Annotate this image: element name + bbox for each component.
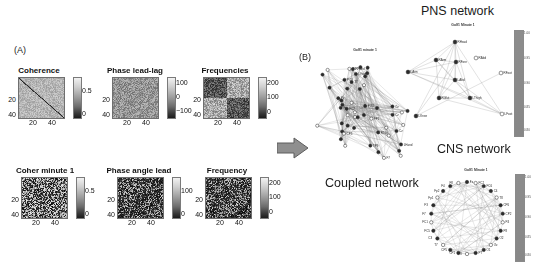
svg-text:O1: O1 bbox=[487, 248, 491, 252]
heatmap-frequencies-image bbox=[204, 78, 249, 118]
svg-text:Fz: Fz bbox=[470, 180, 474, 184]
colorbar-frequencies-label-max: 200 bbox=[267, 79, 279, 86]
svg-text:RAbd: RAbd bbox=[479, 56, 487, 60]
heatmap-title-phase-lead-lag: Phase lead-lag bbox=[95, 66, 175, 75]
svg-text:LThigh: LThigh bbox=[473, 96, 482, 100]
svg-text:LArm: LArm bbox=[411, 70, 419, 74]
colorbar-coher-minute-1-label-max: 0.5 bbox=[85, 187, 95, 194]
heatmap-title-coher-minute-1: Coher minute 1 bbox=[2, 166, 88, 175]
cns-network-heading: CNS network bbox=[437, 142, 511, 156]
heatmap-title-frequency: Frequency bbox=[192, 166, 262, 175]
colorbar-pns-tick-4: 0.80 bbox=[524, 128, 530, 132]
colorbar-cns bbox=[515, 174, 525, 262]
heatmap-frequencies-ytick-20: 20 bbox=[185, 96, 201, 103]
heatmap-coherence-ytick-20: 20 bbox=[0, 96, 16, 103]
heatmap-phase-lead-lag-xtick-40: 40 bbox=[140, 119, 152, 126]
svg-text:P7: P7 bbox=[478, 251, 482, 255]
svg-text:FC6: FC6 bbox=[487, 184, 493, 188]
svg-text:Fp1: Fp1 bbox=[428, 196, 434, 200]
svg-text:LHand: LHand bbox=[404, 143, 413, 147]
heatmap-phase-angle-lead-ytick-40: 40 bbox=[99, 211, 115, 218]
colorbar-cns-tick-3: 0.85 bbox=[525, 235, 531, 239]
svg-text:FC2: FC2 bbox=[349, 107, 355, 111]
svg-text:LFoot: LFoot bbox=[505, 112, 513, 116]
coupled-network-subtitle: Golf1 minute 1 bbox=[330, 48, 400, 52]
svg-text:LAbd: LAbd bbox=[458, 78, 465, 82]
colorbar-frequencies bbox=[258, 77, 267, 119]
svg-text:RFore: RFore bbox=[459, 60, 468, 64]
colorbar-pns bbox=[514, 30, 524, 137]
svg-text:P8: P8 bbox=[503, 229, 507, 233]
pns-network-subtitle: Golf1 Minute 1 bbox=[432, 23, 494, 27]
svg-text:F7: F7 bbox=[422, 212, 426, 216]
colorbar-pns-tick-0: 1.00 bbox=[524, 31, 530, 35]
colorbar-coherence bbox=[73, 77, 82, 119]
svg-text:RFoot: RFoot bbox=[504, 71, 512, 75]
heatmap-frequencies-ytick-40: 40 bbox=[185, 111, 201, 118]
heatmap-coher-minute-1-xtick-20: 20 bbox=[30, 219, 42, 226]
colorbar-cns-tick-0: 1.00 bbox=[525, 175, 531, 179]
heatmap-coher-minute-1-xtick-40: 40 bbox=[49, 219, 61, 226]
colorbar-phase-lead-lag bbox=[167, 77, 176, 119]
svg-text:CP5: CP5 bbox=[347, 132, 353, 136]
heatmap-frequency-image bbox=[206, 178, 251, 218]
svg-text:LFoot: LFoot bbox=[358, 72, 366, 76]
svg-text:T7: T7 bbox=[354, 80, 358, 84]
heatmap-coherence-image bbox=[19, 78, 64, 118]
heatmap-phase-angle-lead bbox=[117, 177, 164, 219]
heatmap-coherence-xtick-40: 40 bbox=[46, 119, 58, 126]
colorbar-frequencies-label-mid: 100 bbox=[267, 93, 279, 100]
svg-text:O2: O2 bbox=[499, 236, 503, 240]
svg-text:T8: T8 bbox=[499, 196, 503, 200]
coupled-network-heading: Coupled network bbox=[325, 176, 419, 190]
svg-text:CP6: CP6 bbox=[503, 203, 509, 207]
heatmap-coherence bbox=[18, 77, 65, 119]
colorbar-cns-tick-1: 0.95 bbox=[525, 195, 531, 199]
colorbar-coher-minute-1 bbox=[76, 177, 85, 219]
colorbar-phase-angle-lead-label-max: 100 bbox=[181, 187, 193, 194]
svg-text:RArm: RArm bbox=[439, 58, 447, 62]
svg-text:Oz: Oz bbox=[494, 243, 498, 247]
heatmap-phase-lead-lag-ytick-40: 40 bbox=[94, 111, 110, 118]
heatmap-coher-minute-1-ytick-40: 40 bbox=[3, 211, 19, 218]
svg-text:F3: F3 bbox=[424, 203, 428, 207]
colorbar-cns-tick-4: 0.80 bbox=[525, 253, 531, 257]
heatmap-title-phase-angle-lead: Phase angle lead bbox=[94, 166, 184, 175]
svg-text:LKnee: LKnee bbox=[419, 114, 428, 118]
colorbar-coherence-label-max: 0.5 bbox=[82, 87, 92, 94]
svg-text:Fp2: Fp2 bbox=[434, 189, 440, 193]
colorbar-frequency-label-mid: 100 bbox=[269, 193, 281, 200]
heatmap-phase-angle-lead-xtick-40: 40 bbox=[145, 219, 157, 226]
colorbar-frequency bbox=[260, 177, 269, 219]
heatmap-frequencies-xtick-20: 20 bbox=[212, 119, 224, 126]
svg-text:CP2: CP2 bbox=[506, 212, 512, 216]
colorbar-phase-angle-lead-label-min: 0 bbox=[181, 210, 185, 217]
heatmap-phase-lead-lag bbox=[112, 77, 159, 119]
heatmap-phase-angle-lead-image bbox=[118, 178, 163, 218]
svg-text:T7: T7 bbox=[434, 243, 438, 247]
heatmap-frequency bbox=[205, 177, 252, 219]
heatmap-coherence-ytick-40: 40 bbox=[0, 111, 16, 118]
colorbar-frequency-label-min: 0 bbox=[269, 208, 273, 215]
pns-network-heading: PNS network bbox=[421, 4, 494, 18]
colorbar-phase-angle-lead bbox=[172, 177, 181, 219]
colorbar-pns-tick-3: 0.85 bbox=[524, 105, 530, 109]
svg-text:RHand: RHand bbox=[355, 67, 365, 71]
heatmap-phase-angle-lead-xtick-20: 20 bbox=[126, 219, 138, 226]
heatmap-title-frequencies: Frequencies bbox=[185, 66, 265, 75]
heatmap-title-coherence: Coherence bbox=[8, 66, 70, 75]
colorbar-coherence-label-min: 0 bbox=[82, 110, 86, 117]
colorbar-phase-lead-lag-label-max: 100 bbox=[176, 79, 188, 86]
figure-canvas: (A) Coherence 20 40 20 40 0.5 0 Phase le… bbox=[0, 0, 536, 264]
svg-text:P4: P4 bbox=[506, 220, 510, 224]
heatmap-phase-angle-lead-ytick-20: 20 bbox=[99, 196, 115, 203]
heatmap-coher-minute-1-ytick-20: 20 bbox=[3, 196, 19, 203]
svg-text:F8: F8 bbox=[449, 181, 453, 185]
svg-text:C3: C3 bbox=[428, 236, 432, 240]
heatmap-coher-minute-1 bbox=[21, 177, 68, 219]
svg-text:TP9: TP9 bbox=[373, 144, 379, 148]
svg-text:CP5: CP5 bbox=[441, 248, 447, 252]
heatmap-frequency-xtick-20: 20 bbox=[214, 219, 226, 226]
colorbar-phase-lead-lag-label-mid: 0 bbox=[176, 93, 180, 100]
heatmap-frequency-ytick-40: 40 bbox=[187, 211, 203, 218]
